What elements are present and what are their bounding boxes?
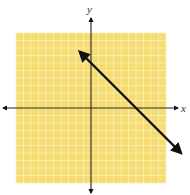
coordinate-plane: x y — [0, 0, 190, 195]
x-axis-label: x — [180, 102, 186, 114]
y-axis-label: y — [86, 3, 92, 15]
